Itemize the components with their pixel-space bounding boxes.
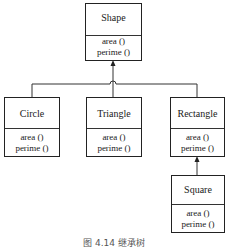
class-methods: area () perime () <box>171 132 224 154</box>
method: area () <box>86 36 141 47</box>
class-divider <box>172 204 224 205</box>
method: perime () <box>172 219 224 230</box>
method: area () <box>5 132 59 143</box>
class-name: Rectangle <box>171 108 224 119</box>
class-triangle: Triangle area () perime () <box>86 97 142 157</box>
class-name: Square <box>172 184 224 195</box>
class-name: Circle <box>5 108 59 119</box>
class-methods: area () perime () <box>87 132 141 154</box>
figure-caption: 图 4.14 继承树 <box>0 236 228 249</box>
method: area () <box>172 208 224 219</box>
method: perime () <box>171 143 224 154</box>
method: perime () <box>87 143 141 154</box>
class-divider <box>171 128 224 129</box>
class-methods: area () perime () <box>172 208 224 230</box>
method: area () <box>171 132 224 143</box>
method: perime () <box>5 143 59 154</box>
class-divider <box>87 128 141 129</box>
class-shape: Shape area () perime () <box>85 3 142 61</box>
class-rectangle: Rectangle area () perime () <box>170 97 225 157</box>
class-divider <box>5 128 59 129</box>
class-name: Shape <box>86 12 141 23</box>
method: perime () <box>86 47 141 58</box>
class-name: Triangle <box>87 108 141 119</box>
class-methods: area () perime () <box>86 36 141 58</box>
class-circle: Circle area () perime () <box>4 97 60 157</box>
class-square: Square area () perime () <box>171 175 225 233</box>
class-methods: area () perime () <box>5 132 59 154</box>
method: area () <box>87 132 141 143</box>
